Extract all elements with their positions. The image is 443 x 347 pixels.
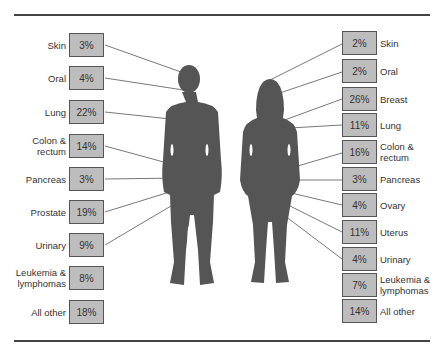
- female-label-skin: Skin: [380, 31, 443, 55]
- female-value-colon: 16%: [342, 140, 377, 164]
- female-silhouette-icon: [240, 79, 300, 283]
- female-label-colon: Colon & rectum: [380, 140, 443, 164]
- female-label-ovary: Ovary: [380, 193, 443, 217]
- female-label-pancreas: Pancreas: [380, 167, 443, 191]
- male-silhouette-icon: [162, 65, 222, 285]
- male-label-lung: Lung: [0, 100, 66, 124]
- male-label-oral: Oral: [0, 66, 66, 90]
- male-label-other: All other: [0, 300, 66, 324]
- male-value-colon: 14%: [69, 134, 104, 158]
- female-value-uterus: 11%: [342, 220, 377, 244]
- male-label-skin: Skin: [0, 33, 66, 57]
- female-value-urinary: 4%: [342, 247, 377, 271]
- female-value-breast: 26%: [342, 87, 377, 111]
- female-label-other: All other: [380, 299, 443, 323]
- female-value-oral: 2%: [342, 59, 377, 83]
- male-value-leukemia: 8%: [69, 266, 104, 290]
- female-value-ovary: 4%: [342, 193, 377, 217]
- female-label-leukemia: Leukemia & lymphomas: [380, 273, 443, 297]
- male-value-urinary: 9%: [69, 233, 104, 257]
- female-label-uterus: Uterus: [380, 220, 443, 244]
- female-label-lung: Lung: [380, 113, 443, 137]
- male-label-urinary: Urinary: [0, 233, 66, 257]
- male-value-other: 18%: [69, 300, 104, 324]
- female-label-urinary: Urinary: [380, 247, 443, 271]
- female-value-leukemia: 7%: [342, 273, 377, 297]
- female-label-oral: Oral: [380, 59, 443, 83]
- female-label-breast: Breast: [380, 87, 443, 111]
- male-label-leukemia: Leukemia & lymphomas: [0, 266, 66, 290]
- male-label-prostate: Prostate: [0, 200, 66, 224]
- male-value-oral: 4%: [69, 66, 104, 90]
- male-label-pancreas: Pancreas: [0, 167, 66, 191]
- male-value-lung: 22%: [69, 100, 104, 124]
- female-value-skin: 2%: [342, 31, 377, 55]
- female-value-lung: 11%: [342, 113, 377, 137]
- male-value-prostate: 19%: [69, 200, 104, 224]
- male-value-pancreas: 3%: [69, 167, 104, 191]
- female-value-pancreas: 3%: [342, 167, 377, 191]
- female-value-other: 14%: [342, 299, 377, 323]
- male-label-colon: Colon & rectum: [0, 134, 66, 158]
- male-value-skin: 3%: [69, 33, 104, 57]
